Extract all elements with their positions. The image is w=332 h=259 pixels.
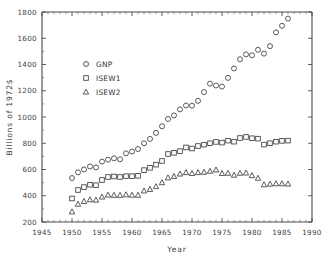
data-point-isew2 <box>87 197 92 202</box>
data-point-isew2 <box>219 171 224 176</box>
data-point-isew1 <box>118 175 123 180</box>
data-point-gnp <box>256 47 261 52</box>
data-point-isew2 <box>177 171 182 176</box>
legend-label-gnp: GNP <box>96 60 113 69</box>
data-point-isew1 <box>190 146 195 151</box>
data-point-gnp <box>148 136 153 141</box>
data-point-isew2 <box>195 170 200 175</box>
data-point-isew1 <box>244 135 249 140</box>
data-point-isew1 <box>268 141 273 146</box>
data-point-isew2 <box>183 170 188 175</box>
data-point-gnp <box>118 157 123 162</box>
data-point-isew1 <box>124 174 129 179</box>
x-tick-label: 1955 <box>92 228 112 237</box>
data-point-gnp <box>88 164 93 169</box>
data-point-isew2 <box>207 168 212 173</box>
x-tick-label: 1975 <box>212 228 232 237</box>
data-point-isew2 <box>189 171 194 176</box>
data-point-gnp <box>172 113 177 118</box>
data-point-isew2 <box>69 209 74 214</box>
chart-page: 2004006008001000120014001600180019451950… <box>0 0 332 259</box>
data-point-isew1 <box>76 188 81 193</box>
data-point-gnp <box>208 81 213 86</box>
data-point-gnp <box>220 84 225 89</box>
data-point-gnp <box>262 51 267 56</box>
data-point-isew2 <box>285 181 290 186</box>
y-axis-title: Billions of 1972$ <box>5 79 14 156</box>
data-point-gnp <box>142 141 147 146</box>
series-isew2 <box>69 167 290 214</box>
y-tick-label: 1000 <box>18 113 38 122</box>
data-point-gnp <box>238 57 243 62</box>
data-point-isew1 <box>112 174 117 179</box>
data-point-gnp <box>106 157 111 162</box>
data-point-isew1 <box>88 182 93 187</box>
data-point-gnp <box>214 83 219 88</box>
x-tick-label: 1950 <box>62 228 82 237</box>
x-tick-label: 1945 <box>32 228 52 237</box>
series-isew1 <box>70 135 291 201</box>
x-tick-label: 1965 <box>152 228 172 237</box>
data-point-isew2 <box>117 192 122 197</box>
data-point-gnp <box>70 176 75 181</box>
data-point-isew1 <box>82 185 87 190</box>
data-point-isew1 <box>256 136 261 141</box>
data-point-isew2 <box>261 182 266 187</box>
legend-marker-isew1 <box>84 76 89 81</box>
data-point-isew1 <box>148 165 153 170</box>
data-point-isew2 <box>99 194 104 199</box>
legend-marker-gnp <box>84 62 89 67</box>
y-tick-label: 400 <box>22 191 37 200</box>
data-point-gnp <box>196 98 201 103</box>
data-point-gnp <box>274 30 279 35</box>
data-point-isew1 <box>280 139 285 144</box>
data-point-isew2 <box>81 198 86 203</box>
data-point-isew2 <box>75 201 80 206</box>
data-point-gnp <box>286 16 291 21</box>
data-point-gnp <box>178 107 183 112</box>
data-point-isew2 <box>165 175 170 180</box>
data-point-gnp <box>124 151 129 156</box>
data-point-isew1 <box>172 151 177 156</box>
y-tick-label: 800 <box>22 139 37 148</box>
data-point-gnp <box>154 130 159 135</box>
data-point-isew1 <box>106 175 111 180</box>
data-point-gnp <box>190 103 195 108</box>
data-point-isew2 <box>135 192 140 197</box>
data-point-isew2 <box>171 173 176 178</box>
data-point-isew1 <box>154 162 159 167</box>
data-point-isew2 <box>255 175 260 180</box>
data-point-gnp <box>94 165 99 170</box>
data-point-gnp <box>112 156 117 161</box>
x-tick-label: 1985 <box>272 228 292 237</box>
data-point-isew1 <box>160 159 165 164</box>
data-point-isew1 <box>184 145 189 150</box>
data-point-isew2 <box>123 192 128 197</box>
data-point-isew2 <box>159 180 164 185</box>
data-point-gnp <box>160 124 165 129</box>
data-point-isew2 <box>147 186 152 191</box>
data-point-isew1 <box>94 183 99 188</box>
data-point-gnp <box>76 170 81 175</box>
data-point-isew1 <box>178 149 183 154</box>
data-point-gnp <box>268 44 273 49</box>
data-point-isew2 <box>105 192 110 197</box>
data-point-isew1 <box>196 144 201 149</box>
y-tick-label: 600 <box>22 165 37 174</box>
data-point-gnp <box>202 90 207 95</box>
data-point-gnp <box>82 167 87 172</box>
y-tick-label: 1800 <box>18 8 38 17</box>
data-point-isew1 <box>220 140 225 145</box>
data-point-gnp <box>130 149 135 154</box>
data-point-isew2 <box>201 169 206 174</box>
y-tick-label: 1400 <box>18 60 38 69</box>
data-point-isew1 <box>142 168 147 173</box>
data-point-gnp <box>244 52 249 57</box>
x-tick-label: 1960 <box>122 228 142 237</box>
legend-marker-isew2 <box>83 89 88 94</box>
data-point-isew1 <box>238 136 243 141</box>
data-point-isew2 <box>249 173 254 178</box>
data-point-gnp <box>232 66 237 71</box>
data-point-isew2 <box>273 181 278 186</box>
data-point-gnp <box>166 116 171 121</box>
